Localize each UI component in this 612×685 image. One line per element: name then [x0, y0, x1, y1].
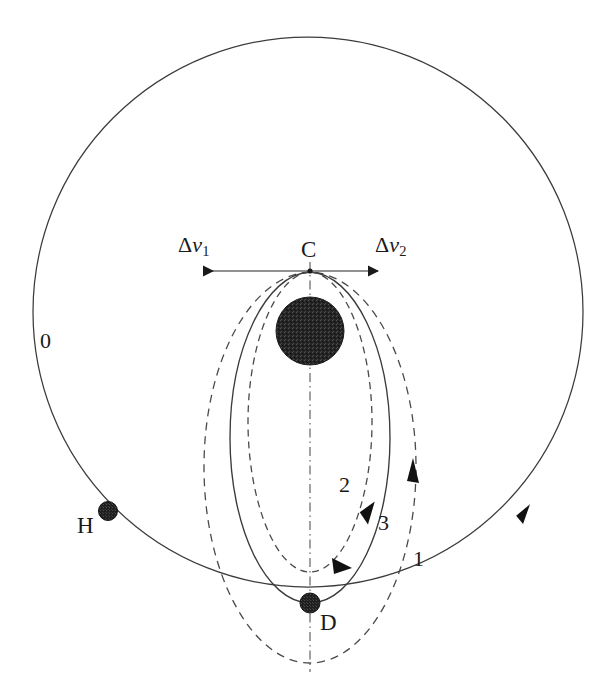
delta-v2-variable: v — [389, 232, 399, 257]
orbit-0-label: 0 — [40, 330, 51, 352]
point-d-label: D — [320, 611, 337, 634]
diagram-canvas — [0, 0, 612, 685]
delta-v1-subscript: 1 — [202, 243, 209, 259]
point-h-label: H — [77, 514, 94, 537]
orbit-3-label: 3 — [378, 512, 389, 534]
point-h-marker — [99, 502, 118, 521]
delta-v2-delta: Δ — [375, 232, 389, 257]
point-c-label: C — [301, 238, 316, 261]
delta-v2-subscript: 2 — [399, 243, 406, 259]
point-d-marker — [300, 593, 320, 613]
orbit-2-direction-arrow — [332, 558, 352, 574]
orbital-transfer-figure: 0 1 2 3 C D H Δv1 Δv2 — [0, 0, 612, 685]
delta-v1-delta: Δ — [178, 232, 192, 257]
point-c-marker — [307, 268, 312, 273]
central-body — [276, 297, 344, 365]
delta-v1-variable: v — [192, 232, 202, 257]
delta-v2-label: Δv2 — [375, 234, 406, 259]
orbit-0-direction-arrow — [515, 504, 532, 524]
orbit-3-direction-arrow — [357, 499, 374, 525]
orbit-1-label: 1 — [413, 548, 424, 570]
orbit-2-label: 2 — [339, 474, 350, 496]
delta-v1-label: Δv1 — [178, 234, 209, 259]
orbit-1-direction-arrow — [407, 458, 419, 483]
